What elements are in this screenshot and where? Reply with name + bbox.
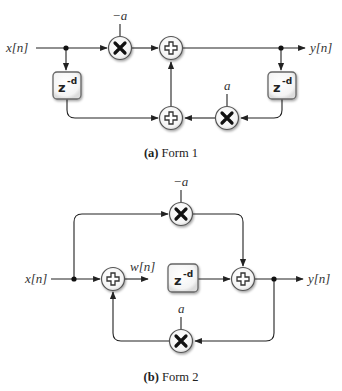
junction-dot: [271, 276, 276, 281]
wire-mult-to-input-adder: [113, 292, 169, 341]
coef-label-top: −a: [112, 8, 128, 23]
delay-base: z: [273, 80, 281, 95]
delay-exponent: -d: [282, 76, 292, 86]
multiplier-node-top: [170, 203, 193, 226]
delay-exponent: -d: [183, 269, 193, 279]
form-1-diagram: z -d z -d x[n] y[n] −a a (a) Form 1: [5, 8, 332, 160]
caption-text: Form 1: [158, 146, 198, 160]
internal-signal-label: w[n]: [130, 259, 155, 274]
multiplier-node-top: [109, 37, 132, 60]
delay-block: z -d: [168, 264, 198, 292]
delay-exponent: -d: [67, 76, 77, 86]
junction-dot: [71, 276, 76, 281]
junction-dot: [278, 45, 283, 50]
adder-node-output: [232, 268, 255, 291]
output-label: y[n]: [308, 40, 332, 55]
wire-delay-right-to-mult: [241, 99, 282, 118]
form-2-diagram: z -d x[n] y[n] w[n] −a a (b) Form 2: [24, 174, 330, 384]
coef-label-bottom: a: [178, 301, 185, 316]
delay-block-left: z -d: [53, 72, 81, 99]
wire-mult-to-output-adder: [193, 214, 243, 266]
junction-dot: [63, 45, 68, 50]
caption-tag: (a): [144, 146, 159, 160]
adder-node-top: [160, 37, 183, 60]
caption-text: Form 2: [159, 370, 199, 384]
adder-node-input: [102, 268, 125, 291]
multiplier-node-bottom: [216, 107, 239, 130]
delay-block-right: z -d: [268, 72, 296, 99]
wire-feedback-to-mult: [195, 279, 274, 341]
coef-label-bottom: a: [224, 78, 231, 93]
input-label: x[n]: [24, 271, 47, 286]
caption-a: (a) Form 1: [144, 146, 198, 160]
caption-tag: (b): [144, 370, 159, 384]
diagram-canvas: z -d z -d x[n] y[n] −a a (a) Form 1: [0, 0, 342, 391]
adder-node-bottom: [160, 107, 183, 130]
caption-b: (b) Form 2: [144, 370, 199, 384]
multiplier-node-bottom: [170, 330, 193, 353]
input-label: x[n]: [5, 40, 28, 55]
output-label: y[n]: [306, 271, 330, 286]
wire-delay-left-to-adder: [67, 99, 158, 118]
delay-base: z: [174, 273, 182, 288]
coef-label-top: −a: [173, 174, 189, 189]
delay-base: z: [58, 80, 66, 95]
